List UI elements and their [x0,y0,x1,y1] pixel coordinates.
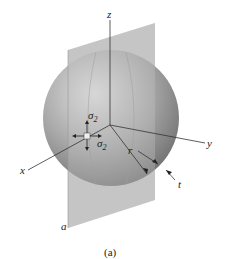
y-axis-label: y [207,138,212,149]
stress-element [84,133,90,139]
thickness-label: t [178,179,181,190]
z-axis-label: z [107,9,111,20]
sphere-stress-diagram: z y x r t a σ2 σ2 (a) [0,0,225,259]
x-axis-label: x [20,165,25,176]
figure-caption: (a) [104,247,116,258]
sigma-top-label: σ2 [88,110,97,124]
radius-label: r [128,145,132,156]
plane-label: a [61,221,67,232]
sigma-right-label: σ2 [97,138,106,152]
diagram-graphic [0,0,225,259]
